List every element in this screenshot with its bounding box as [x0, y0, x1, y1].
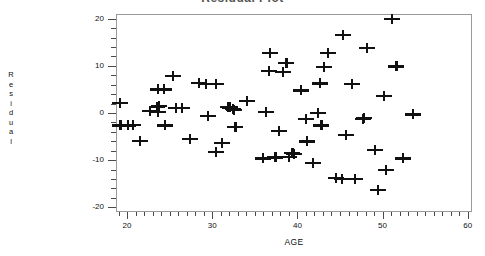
x-axis-minor-tick	[306, 212, 307, 216]
x-axis-minor-tick	[349, 212, 350, 216]
chart-title: Residual Plot	[0, 0, 485, 5]
plus-marker-vertical	[305, 114, 307, 124]
plus-marker-vertical	[189, 134, 191, 144]
plus-marker-vertical	[262, 153, 264, 163]
plus-marker-vertical	[215, 147, 217, 157]
plus-marker-vertical	[327, 48, 329, 58]
x-axis-minor-tick	[153, 212, 154, 216]
x-axis-label: AGE	[116, 237, 472, 247]
plus-marker-vertical	[282, 67, 284, 77]
x-axis-minor-tick	[221, 212, 222, 216]
plus-marker-vertical	[172, 71, 174, 81]
y-axis-tick-label-wrap: 20	[76, 14, 104, 24]
plus-marker-vertical	[158, 101, 160, 111]
x-axis-minor-tick	[323, 212, 324, 216]
x-axis-tick-label: 60	[453, 221, 483, 230]
plus-marker-vertical	[234, 122, 236, 132]
x-axis-minor-tick	[340, 212, 341, 216]
plus-marker-vertical	[164, 120, 166, 130]
plus-marker-vertical	[306, 136, 308, 146]
plus-marker-vertical	[285, 58, 287, 68]
x-axis-tick	[383, 212, 384, 219]
x-axis-minor-tick	[204, 212, 205, 216]
y-axis-tick	[108, 66, 116, 67]
x-axis-minor-tick	[400, 212, 401, 216]
x-axis-minor-tick	[178, 212, 179, 216]
plus-marker-vertical	[395, 61, 397, 71]
y-axis-label: R e s i d u a l	[4, 70, 18, 146]
plus-marker-vertical	[265, 107, 267, 117]
plus-marker-vertical	[215, 79, 217, 89]
plus-marker-vertical	[391, 14, 393, 24]
plus-marker-vertical	[323, 62, 325, 72]
y-axis-label-letter: a	[4, 127, 18, 137]
plus-marker-vertical	[363, 113, 365, 123]
plus-marker-vertical	[181, 103, 183, 113]
y-axis-tick	[108, 207, 116, 208]
x-axis-minor-tick	[263, 212, 264, 216]
x-axis-minor-tick	[238, 212, 239, 216]
plus-marker-vertical	[278, 126, 280, 136]
x-axis-minor-tick	[119, 212, 120, 216]
plus-marker-vertical	[139, 136, 141, 146]
plus-marker-vertical	[351, 79, 353, 89]
plus-marker-vertical	[132, 120, 134, 130]
plus-marker-vertical	[221, 138, 223, 148]
y-axis-tick-label: 20	[76, 14, 104, 23]
x-axis-minor-tick	[408, 212, 409, 216]
plus-marker-vertical	[317, 108, 319, 118]
plus-marker-vertical	[119, 98, 121, 108]
x-axis-minor-tick	[442, 212, 443, 216]
x-axis-tick	[212, 212, 213, 219]
plus-marker-vertical	[274, 152, 276, 162]
x-axis-tick-label: 50	[368, 221, 398, 230]
x-axis-minor-tick	[136, 212, 137, 216]
x-axis-minor-tick	[417, 212, 418, 216]
plus-marker-vertical	[269, 48, 271, 58]
x-axis-minor-tick	[391, 212, 392, 216]
x-axis-minor-tick	[255, 212, 256, 216]
x-axis-tick	[297, 212, 298, 219]
x-axis-minor-tick	[229, 212, 230, 216]
x-axis-minor-tick	[374, 212, 375, 216]
x-axis-minor-tick	[314, 212, 315, 216]
y-axis-label-letter: l	[4, 137, 18, 147]
plus-marker-vertical	[341, 174, 343, 184]
x-axis-tick-label: 40	[282, 221, 312, 230]
plus-marker-vertical	[300, 85, 302, 95]
x-axis-minor-tick	[357, 212, 358, 216]
x-axis-minor-tick	[187, 212, 188, 216]
y-axis-label-letter: u	[4, 118, 18, 128]
plus-marker-vertical	[319, 78, 321, 88]
x-axis-minor-tick	[434, 212, 435, 216]
y-axis-tick	[108, 113, 116, 114]
plus-marker-vertical	[293, 149, 295, 159]
x-axis-tick-label: 30	[197, 221, 227, 230]
plus-marker-vertical	[233, 105, 235, 115]
plus-marker-vertical	[385, 165, 387, 175]
plus-marker-vertical	[383, 91, 385, 101]
plus-marker-vertical	[163, 84, 165, 94]
plus-marker-vertical	[312, 158, 314, 168]
x-axis-minor-tick	[144, 212, 145, 216]
plus-marker-vertical	[374, 145, 376, 155]
x-axis-minor-tick	[246, 212, 247, 216]
y-axis-tick-label: -10	[76, 155, 104, 164]
y-axis-label-letter: d	[4, 108, 18, 118]
plus-marker-vertical	[320, 120, 322, 130]
plus-marker-vertical	[366, 43, 368, 53]
y-axis-label-letter: i	[4, 99, 18, 109]
y-axis-label-letter: R	[4, 70, 18, 80]
x-axis-minor-tick	[280, 212, 281, 216]
x-axis-minor-tick	[170, 212, 171, 216]
y-axis-label-letter: s	[4, 89, 18, 99]
x-axis-tick-label: 20	[112, 221, 142, 230]
plot-area	[116, 14, 472, 212]
y-axis-tick	[108, 160, 116, 161]
plus-marker-vertical	[342, 30, 344, 40]
y-axis-tick-label-wrap: -10	[76, 155, 104, 165]
x-axis-minor-tick	[425, 212, 426, 216]
x-axis-tick	[127, 212, 128, 219]
y-axis-label-letter: e	[4, 80, 18, 90]
x-axis-minor-tick	[451, 212, 452, 216]
